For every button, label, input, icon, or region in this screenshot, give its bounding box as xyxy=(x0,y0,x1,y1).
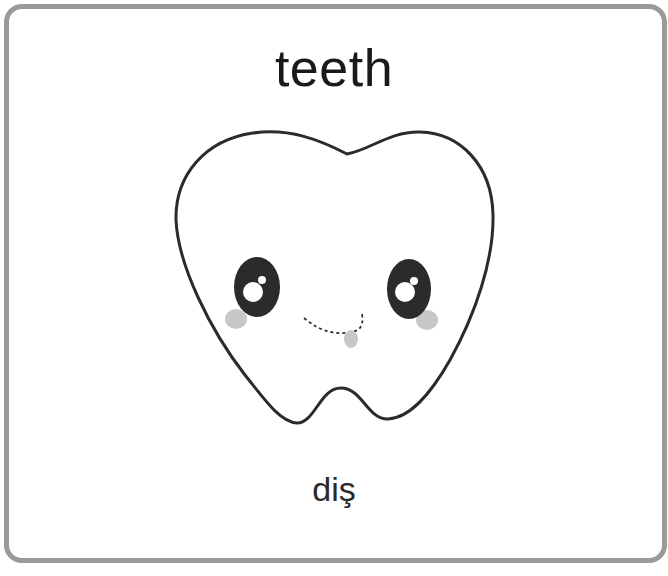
tongue xyxy=(344,330,358,348)
left-blush xyxy=(225,309,247,329)
tooth-outline xyxy=(176,132,493,423)
word-translation: diş xyxy=(0,472,668,506)
